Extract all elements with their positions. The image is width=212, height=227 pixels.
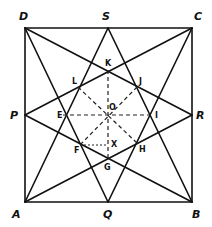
label-f: F xyxy=(74,146,79,155)
label-a: A xyxy=(11,208,21,221)
label-j: J xyxy=(138,77,142,86)
label-s: S xyxy=(102,10,110,23)
label-l: L xyxy=(72,77,77,86)
label-x: X xyxy=(111,140,118,149)
label-k: K xyxy=(105,59,112,68)
geometry-diagram: D S C P R A Q B K L J E O I F X H G xyxy=(0,0,212,227)
label-q: Q xyxy=(103,208,112,221)
label-g: G xyxy=(104,163,111,172)
label-d: D xyxy=(19,10,28,23)
label-p: P xyxy=(10,109,18,122)
label-e: E xyxy=(57,111,62,120)
label-c: C xyxy=(194,10,202,23)
label-h: H xyxy=(139,145,146,154)
label-i: I xyxy=(155,111,158,120)
label-o: O xyxy=(109,103,116,112)
label-b: B xyxy=(192,208,200,221)
label-r: R xyxy=(196,109,204,122)
